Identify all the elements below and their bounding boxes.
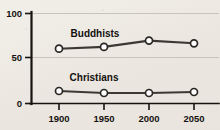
series-buddhists-point-2050 (191, 40, 198, 47)
x-tick-label-2050: 2050 (183, 113, 204, 124)
series-christians (56, 88, 198, 97)
series-label-buddhists: Buddhists (71, 28, 120, 39)
series-christians-point-2050 (191, 89, 198, 96)
x-tick-label-1950: 1950 (93, 113, 114, 124)
series-buddhists-point-2000 (146, 37, 153, 44)
y-tick-label-100: 100 (6, 8, 22, 19)
series-buddhists-point-1950 (101, 43, 108, 50)
series-buddhists (56, 37, 198, 52)
series-label-christians: Christians (70, 72, 119, 83)
x-tick-label-1900: 1900 (48, 113, 69, 124)
line-chart: 100 50 0 1900 1950 2000 2050 (0, 0, 220, 130)
series-buddhists-point-1900 (56, 45, 63, 52)
chart-container: 100 50 0 1900 1950 2000 2050 (0, 0, 220, 130)
x-tick-label-2000: 2000 (138, 113, 159, 124)
y-tick-label-0: 0 (17, 98, 22, 109)
series-christians-point-1950 (101, 90, 108, 97)
series-buddhists-line (59, 41, 194, 49)
series-christians-point-2000 (146, 90, 153, 97)
series-christians-line (59, 91, 194, 93)
series-christians-point-1900 (56, 88, 63, 95)
y-tick-label-50: 50 (11, 52, 22, 63)
